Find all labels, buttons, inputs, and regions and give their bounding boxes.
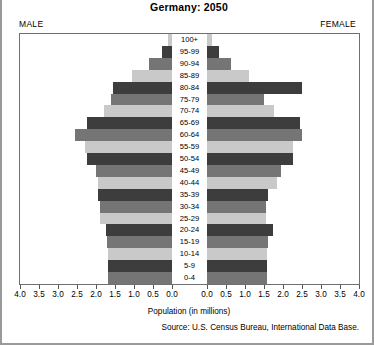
female-bar xyxy=(207,129,302,141)
female-bar xyxy=(207,46,219,58)
female-bar xyxy=(207,177,277,189)
male-bar xyxy=(75,129,172,141)
male-bar xyxy=(107,236,172,248)
age-group-labels: 100+95-9990-9485-8980-8475-7970-7465-696… xyxy=(172,34,207,284)
male-bar xyxy=(108,260,172,272)
population-pyramid-page: Germany: 2050 MALE FEMALE 100+95-9990-94… xyxy=(0,0,374,345)
axis-tick-label: 0.0 xyxy=(159,290,185,299)
male-bar xyxy=(111,94,172,106)
female-bar xyxy=(207,141,293,153)
axis-tick xyxy=(226,285,227,289)
age-group-label: 90-94 xyxy=(172,58,207,70)
male-bar xyxy=(87,153,173,165)
age-group-label: 70-74 xyxy=(172,105,207,117)
age-group-label: 55-59 xyxy=(172,141,207,153)
female-bar xyxy=(207,34,212,46)
male-bar xyxy=(108,248,172,260)
male-bar xyxy=(106,224,173,236)
female-bar xyxy=(207,213,266,225)
male-bar xyxy=(149,58,172,70)
female-bar xyxy=(207,260,267,272)
male-bar xyxy=(162,46,172,58)
female-axis-caption: FEMALE xyxy=(320,19,356,29)
female-bar xyxy=(207,224,273,236)
male-bar xyxy=(100,201,172,213)
female-bar xyxy=(207,236,268,248)
axis-tick xyxy=(172,285,173,289)
male-bar xyxy=(108,272,172,284)
age-group-label: 5-9 xyxy=(172,260,207,272)
age-group-label: 20-24 xyxy=(172,224,207,236)
age-group-label: 40-44 xyxy=(172,177,207,189)
axis-tick xyxy=(58,285,59,289)
male-bar xyxy=(96,165,172,177)
age-group-label: 45-49 xyxy=(172,165,207,177)
male-bar xyxy=(85,141,172,153)
male-bar xyxy=(98,177,172,189)
age-group-label: 85-89 xyxy=(172,70,207,82)
age-group-label: 50-54 xyxy=(172,153,207,165)
female-bar xyxy=(207,70,249,82)
female-bar xyxy=(207,272,267,284)
age-group-label: 75-79 xyxy=(172,94,207,106)
axis-tick xyxy=(134,285,135,289)
female-bar xyxy=(207,82,302,94)
age-group-label: 0-4 xyxy=(172,272,207,284)
axis-tick xyxy=(283,285,284,289)
age-group-label: 15-19 xyxy=(172,236,207,248)
male-axis-caption: MALE xyxy=(19,19,43,29)
female-bar xyxy=(207,117,300,129)
female-bar xyxy=(207,165,281,177)
age-group-label: 60-64 xyxy=(172,129,207,141)
age-group-label: 25-29 xyxy=(172,213,207,225)
source-note: Source: U.S. Census Bureau, Internationa… xyxy=(161,323,359,332)
female-bar xyxy=(207,153,293,165)
axis-tick xyxy=(321,285,322,289)
male-bar xyxy=(87,117,173,129)
age-group-label: 10-14 xyxy=(172,248,207,260)
x-axis-label: Population (in millions) xyxy=(2,307,374,316)
page-title: Germany: 2050 xyxy=(2,1,374,13)
male-bar xyxy=(104,105,172,117)
female-bar xyxy=(207,58,231,70)
female-bar xyxy=(207,248,267,260)
age-group-label: 35-39 xyxy=(172,189,207,201)
chart-plot-area: 100+95-9990-9485-8980-8475-7970-7465-696… xyxy=(19,33,360,285)
axis-tick xyxy=(115,285,116,289)
axis-tick-label: 4.0 xyxy=(346,290,372,299)
axis-tick xyxy=(20,285,21,289)
axis-tick xyxy=(245,285,246,289)
female-bar xyxy=(207,105,274,117)
age-group-label: 95-99 xyxy=(172,46,207,58)
male-bar xyxy=(98,189,172,201)
axis-tick xyxy=(207,285,208,289)
axis-tick xyxy=(264,285,265,289)
male-bar xyxy=(113,82,172,94)
male-bar xyxy=(132,70,172,82)
axis-tick xyxy=(39,285,40,289)
age-group-label: 100+ xyxy=(172,34,207,46)
axis-tick xyxy=(302,285,303,289)
female-bar xyxy=(207,94,264,106)
female-bar xyxy=(207,189,268,201)
axis-tick xyxy=(96,285,97,289)
age-group-label: 80-84 xyxy=(172,82,207,94)
female-bar xyxy=(207,201,266,213)
axis-tick xyxy=(359,285,360,289)
axis-tick xyxy=(77,285,78,289)
age-group-label: 30-34 xyxy=(172,201,207,213)
age-group-label: 65-69 xyxy=(172,117,207,129)
male-bar xyxy=(100,213,172,225)
x-axis: 4.03.53.02.52.01.51.00.50.00.00.51.01.52… xyxy=(19,285,360,286)
axis-tick xyxy=(340,285,341,289)
axis-tick xyxy=(153,285,154,289)
